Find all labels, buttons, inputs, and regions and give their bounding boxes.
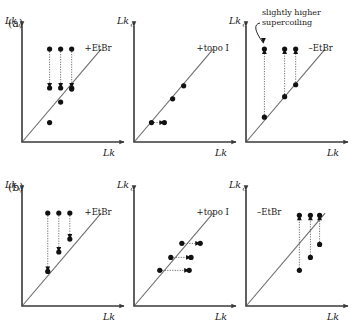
data-point bbox=[297, 213, 302, 218]
data-point bbox=[181, 83, 186, 88]
topology-figure: (a)LkoLk+EtBrLkoLk+topo ILkoLk–EtBrsligh… bbox=[0, 0, 362, 328]
data-point bbox=[47, 47, 52, 52]
panel-b1: LkoLk+EtBr bbox=[4, 179, 124, 322]
y-axis-label: Lk bbox=[4, 15, 17, 26]
x-axis-label: Lk bbox=[102, 147, 115, 158]
y-axis-label-subscript: o bbox=[243, 21, 247, 29]
panel-b2: LkoLk+topo I bbox=[116, 179, 236, 322]
data-point bbox=[69, 47, 74, 52]
data-point bbox=[58, 85, 63, 90]
diagonal-reference-line bbox=[23, 213, 101, 305]
treatment-label: +EtBr bbox=[85, 43, 113, 53]
data-point bbox=[297, 268, 302, 273]
y-axis-label: Lk bbox=[116, 15, 129, 26]
data-point bbox=[262, 47, 267, 52]
data-series bbox=[308, 213, 313, 260]
diagonal-reference-line bbox=[23, 49, 101, 141]
panel-a1: LkoLk+EtBr bbox=[4, 15, 124, 158]
data-series bbox=[67, 211, 72, 242]
treatment-label: –EtBr bbox=[257, 207, 282, 217]
data-point bbox=[47, 85, 52, 90]
data-series bbox=[56, 211, 61, 255]
y-axis-label-subscript: o bbox=[19, 185, 23, 193]
data-series bbox=[282, 47, 287, 100]
data-point bbox=[179, 241, 184, 246]
data-point bbox=[45, 211, 50, 216]
annotation-line-2: supercoiling bbox=[262, 18, 312, 27]
data-point bbox=[149, 120, 154, 125]
data-point bbox=[187, 268, 192, 273]
data-point bbox=[317, 213, 322, 218]
data-point bbox=[157, 268, 162, 273]
data-point bbox=[293, 82, 298, 87]
data-series bbox=[262, 47, 267, 120]
y-axis-label-subscript: o bbox=[243, 185, 247, 193]
figure-canvas: (a)LkoLk+EtBrLkoLk+topo ILkoLk–EtBrsligh… bbox=[0, 0, 362, 328]
y-axis-label-subscript: o bbox=[19, 21, 23, 29]
data-point bbox=[58, 47, 63, 52]
diagonal-reference-line bbox=[135, 49, 213, 141]
treatment-label: +EtBr bbox=[85, 207, 113, 217]
y-axis-label: Lk bbox=[228, 179, 241, 190]
x-axis-label: Lk bbox=[102, 311, 115, 322]
data-point bbox=[198, 241, 203, 246]
data-series bbox=[297, 213, 302, 273]
data-point bbox=[308, 255, 313, 260]
data-series bbox=[47, 47, 52, 91]
row-b-supercoiled-dna: (b)LkoLk+EtBrLkoLk+topo ILkoLk–EtBr bbox=[4, 179, 348, 322]
y-axis-label: Lk bbox=[116, 179, 129, 190]
diagonal-reference-line bbox=[135, 213, 213, 305]
data-series bbox=[179, 241, 203, 246]
data-point bbox=[56, 211, 61, 216]
panel-b3: LkoLk–EtBr bbox=[228, 179, 348, 322]
data-point bbox=[262, 115, 267, 120]
data-point bbox=[162, 120, 167, 125]
data-point bbox=[58, 99, 63, 104]
x-axis-label: Lk bbox=[214, 147, 227, 158]
data-series bbox=[45, 211, 50, 275]
data-point bbox=[188, 255, 193, 260]
x-axis-label: Lk bbox=[326, 311, 339, 322]
treatment-label: +topo I bbox=[197, 207, 229, 217]
data-point bbox=[47, 120, 52, 125]
data-point bbox=[170, 96, 175, 101]
row-a-relaxed-dna: (a)LkoLk+EtBrLkoLk+topo ILkoLk–EtBrsligh… bbox=[4, 8, 348, 158]
data-point bbox=[168, 255, 173, 260]
data-point bbox=[317, 242, 322, 247]
x-axis-label: Lk bbox=[214, 311, 227, 322]
annotation-line-1: slightly higher bbox=[262, 8, 321, 17]
data-point bbox=[293, 47, 298, 52]
y-axis-label-subscript: o bbox=[131, 21, 135, 29]
treatment-label: +topo I bbox=[197, 43, 229, 53]
data-series bbox=[149, 120, 167, 125]
data-point bbox=[67, 236, 72, 241]
data-series bbox=[58, 47, 63, 91]
data-point bbox=[69, 86, 74, 91]
data-point bbox=[67, 211, 72, 216]
data-point bbox=[282, 47, 287, 52]
treatment-label: –EtBr bbox=[309, 43, 334, 53]
panel-a3: LkoLk–EtBrslightly highersupercoiling bbox=[228, 8, 348, 158]
y-axis-label: Lk bbox=[4, 179, 17, 190]
data-point bbox=[56, 249, 61, 254]
diagonal-reference-line bbox=[247, 213, 325, 305]
data-series bbox=[168, 255, 193, 260]
y-axis-label-subscript: o bbox=[131, 185, 135, 193]
y-axis-label: Lk bbox=[228, 15, 241, 26]
data-point bbox=[282, 94, 287, 99]
data-point bbox=[45, 269, 50, 274]
data-point bbox=[308, 213, 313, 218]
x-axis-label: Lk bbox=[326, 147, 339, 158]
panel-a2: LkoLk+topo I bbox=[116, 15, 236, 158]
